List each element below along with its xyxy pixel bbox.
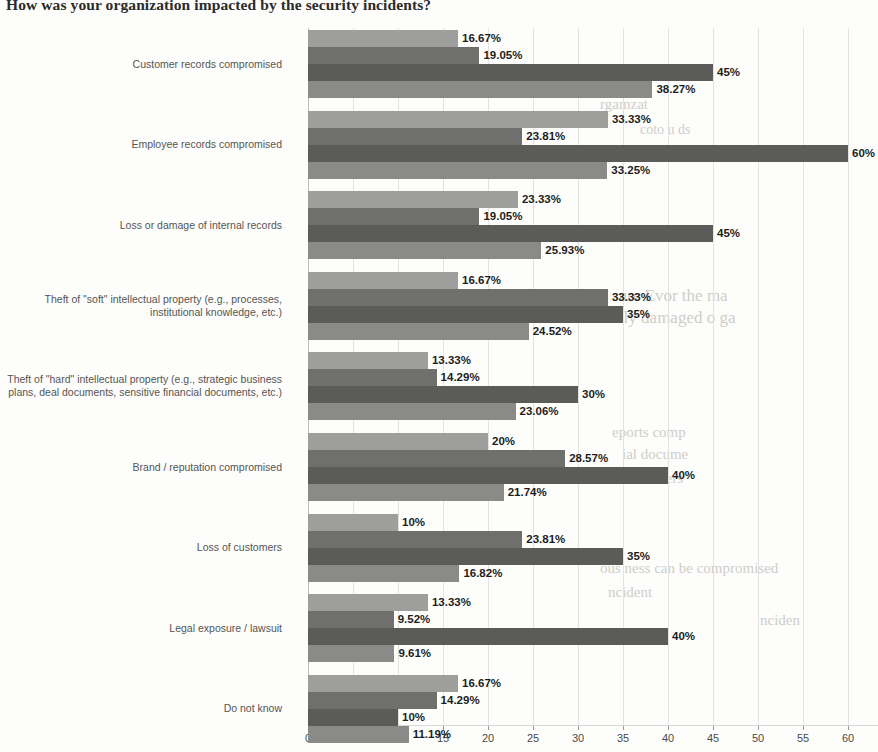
bar-group: Theft of "soft" intellectual property (e… [0,272,878,340]
category-label: Loss or damage of internal records [0,219,282,232]
category-label-line: Legal exposure / lawsuit [0,622,282,635]
bar[interactable] [308,191,518,208]
bar-value-label: 60% [852,145,875,162]
bar-value-label: 23.81% [526,128,565,145]
bar-value-label: 10% [402,709,425,726]
bar[interactable] [308,289,608,306]
bar[interactable] [308,145,848,162]
bar[interactable] [308,531,522,548]
category-label-line: Customer records compromised [0,58,282,71]
bar-value-label: 14.29% [441,692,480,709]
bar-value-label: 40% [672,467,695,484]
bar-value-label: 33.33% [612,111,651,128]
bar-value-label: 30% [582,386,605,403]
bar-value-label: 19.05% [483,47,522,64]
bar[interactable] [308,64,713,81]
bar[interactable] [308,272,458,289]
category-label: Legal exposure / lawsuit [0,622,282,635]
category-label-line: Brand / reputation compromised [0,461,282,474]
bar[interactable] [308,433,488,450]
bar[interactable] [308,352,428,369]
bar[interactable] [308,30,458,47]
bar-group: Customer records compromised16.67%19.05%… [0,30,878,98]
bar-group: Brand / reputation compromised20%28.57%4… [0,433,878,501]
category-label: Employee records compromised [0,138,282,151]
bar-value-label: 16.67% [462,675,501,692]
bar-value-label: 40% [672,628,695,645]
bar-value-label: 45% [717,64,740,81]
bar-value-label: 35% [627,548,650,565]
bar[interactable] [308,225,713,242]
bar-group: Loss of customers10%23.81%35%16.82% [0,514,878,582]
bar[interactable] [308,111,608,128]
bar-value-label: 13.33% [432,352,471,369]
bar-group: Theft of "hard" intellectual property (e… [0,352,878,420]
bar[interactable] [308,645,394,662]
bar[interactable] [308,81,652,98]
bar-value-label: 19.05% [483,208,522,225]
bar[interactable] [308,484,504,501]
bar-group: Employee records compromised33.33%23.81%… [0,111,878,179]
bar[interactable] [308,726,409,743]
bar[interactable] [308,467,668,484]
bar[interactable] [308,450,565,467]
chart-page: How was your organization impacted by th… [0,0,878,752]
bar[interactable] [308,128,522,145]
bar[interactable] [308,594,428,611]
bar[interactable] [308,306,623,323]
bar-value-label: 33.25% [611,162,650,179]
bar-group: Legal exposure / lawsuit13.33%9.52%40%9.… [0,594,878,662]
bar-value-label: 10% [402,514,425,531]
bar[interactable] [308,692,437,709]
bar-value-label: 38.27% [656,81,695,98]
bar-value-label: 11.19% [413,726,451,743]
bar[interactable] [308,611,394,628]
category-label: Loss of customers [0,541,282,554]
category-label: Customer records compromised [0,58,282,71]
category-label-line: Employee records compromised [0,138,282,151]
bar-value-label: 20% [492,433,515,450]
bar-value-label: 16.67% [462,30,501,47]
bar-value-label: 14.29% [441,369,480,386]
bar[interactable] [308,565,459,582]
bar[interactable] [308,386,578,403]
bar[interactable] [308,548,623,565]
bar-value-label: 23.81% [526,531,565,548]
bar-value-label: 35% [627,306,650,323]
category-label-line: Loss of customers [0,541,282,554]
category-label-line: plans, deal documents, sensitive financi… [0,386,282,399]
bar-value-label: 23.06% [520,403,559,420]
chart-title: How was your organization impacted by th… [6,0,431,14]
bar-value-label: 28.57% [569,450,608,467]
bar-value-label: 16.82% [463,565,502,582]
bar[interactable] [308,323,529,340]
bar[interactable] [308,628,668,645]
category-label: Brand / reputation compromised [0,461,282,474]
bar-group: Loss or damage of internal records23.33%… [0,191,878,259]
category-label-line: Do not know [0,702,282,715]
bar[interactable] [308,47,479,64]
plot-area: 0510152025303540455055606 Customer recor… [0,28,878,728]
bar[interactable] [308,675,458,692]
bar[interactable] [308,709,398,726]
bar-value-label: 16.67% [462,272,501,289]
bar[interactable] [308,208,479,225]
category-label: Theft of "soft" intellectual property (e… [0,293,282,319]
bar-value-label: 23.33% [522,191,561,208]
bar[interactable] [308,369,437,386]
category-label: Do not know [0,702,282,715]
bar[interactable] [308,403,516,420]
category-label-line: Theft of "hard" intellectual property (e… [0,373,282,386]
bar-value-label: 25.93% [545,242,584,259]
category-label-line: Loss or damage of internal records [0,219,282,232]
bar-value-label: 9.61% [398,645,431,662]
bar-value-label: 45% [717,225,740,242]
bar-value-label: 24.52% [533,323,572,340]
bar-group: Do not know16.67%14.29%10%11.19% [0,675,878,743]
bar[interactable] [308,162,607,179]
bar-value-label: 13.33% [432,594,471,611]
bar[interactable] [308,242,541,259]
bar-value-label: 9.52% [398,611,431,628]
bar-value-label: 21.74% [508,484,547,501]
bar[interactable] [308,514,398,531]
